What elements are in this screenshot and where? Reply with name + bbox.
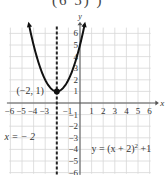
parabola-graph: xy−6−5−4−3−1123456−6−5−4−3−2−1123456x = … [0, 0, 165, 175]
y-tick-label: 1 [74, 86, 79, 96]
y-axis-arrow-icon [78, 22, 83, 25]
x-tick-label: 6 [147, 106, 152, 116]
x-axis-label: x [159, 98, 164, 108]
x-tick-label: 3 [113, 106, 118, 116]
axis-of-symmetry-label: x = − 2 [3, 131, 34, 142]
vertex-point [54, 88, 60, 94]
x-tick-label: 5 [136, 106, 141, 116]
y-tick-label: 6 [74, 28, 79, 38]
left-arrow-icon [27, 22, 32, 28]
vertex-label: (−2, 1) [16, 85, 43, 97]
x-tick-label: 1 [89, 106, 94, 116]
x-tick-label: 4 [124, 106, 129, 116]
y-tick-label: −2 [68, 121, 78, 131]
y-axis-label: y [77, 12, 82, 21]
y-tick-label: 2 [74, 75, 79, 85]
y-tick-label: 5 [74, 40, 79, 50]
right-arrow-icon [82, 22, 87, 28]
function-label: y = (x + 2)2 +1 [92, 142, 152, 155]
y-tick-label: −1 [68, 110, 78, 120]
x-tick-label: −5 [16, 106, 26, 116]
y-tick-label: −5 [68, 156, 78, 166]
y-tick-label: −4 [68, 144, 78, 154]
x-tick-label: −3 [39, 106, 49, 116]
x-axis-arrow-icon [155, 101, 158, 106]
x-tick-label: −4 [28, 106, 38, 116]
x-tick-label: −6 [5, 106, 15, 116]
x-tick-label: 2 [101, 106, 106, 116]
y-tick-label: −6 [68, 168, 78, 175]
y-tick-label: −3 [68, 133, 78, 143]
